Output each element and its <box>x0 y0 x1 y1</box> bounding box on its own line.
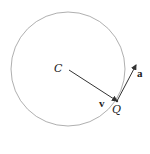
segment-CQ <box>69 70 117 101</box>
center-label-C: C <box>54 62 63 75</box>
label-near-tangent-a: a <box>137 67 143 79</box>
label-near-CQ-v: v <box>99 97 105 109</box>
tangent-arrow <box>117 65 136 101</box>
circle-path <box>11 12 125 126</box>
point-label-Q: Q <box>112 103 121 116</box>
circular-motion-diagram: C Q v a <box>0 0 150 154</box>
point-Q-dot <box>116 100 118 102</box>
